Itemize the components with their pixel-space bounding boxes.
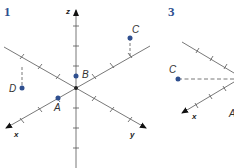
diagram-canvas: 1 z x y <box>0 0 234 168</box>
point-a-label: A <box>228 108 234 119</box>
z-axis-label: z <box>65 7 70 16</box>
x-axis <box>6 46 150 128</box>
point-c <box>128 36 133 41</box>
x-axis <box>182 82 234 113</box>
x-axis-label: x <box>191 112 197 121</box>
point-c-label: C <box>169 64 177 75</box>
point-d-label: D <box>9 83 16 94</box>
axis-back-extension <box>182 42 234 73</box>
point-b <box>74 74 79 79</box>
figure-3: 3 x C A <box>168 4 234 121</box>
point-a <box>56 96 61 101</box>
point-c-label: C <box>132 24 140 35</box>
point-d <box>20 86 25 91</box>
point-a-label: A <box>53 102 61 113</box>
x-axis-label: x <box>13 130 19 139</box>
figure-1: 1 z x y <box>4 4 150 168</box>
point-b-label: B <box>82 69 89 80</box>
origin <box>74 86 78 90</box>
point-c <box>176 77 181 82</box>
figure-number: 3 <box>168 4 175 19</box>
y-axis-label: y <box>129 130 135 139</box>
figure-number: 1 <box>4 4 11 19</box>
